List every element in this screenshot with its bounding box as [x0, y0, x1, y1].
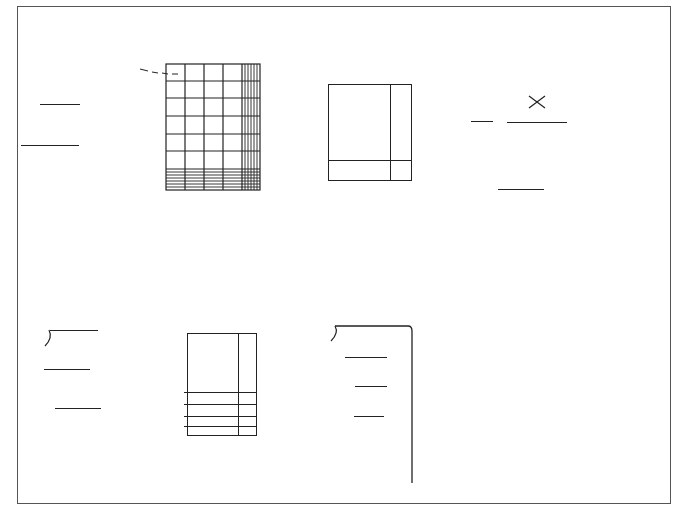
divider [184, 392, 257, 393]
division-bar [50, 330, 98, 331]
rule [507, 122, 567, 123]
rule [21, 145, 79, 146]
rule [40, 104, 80, 105]
divider [184, 416, 257, 417]
rule [55, 408, 101, 409]
cross-multiply-icon [529, 96, 547, 110]
divider [184, 426, 257, 427]
divider [238, 333, 239, 436]
divider [328, 160, 412, 161]
area-rectangle [187, 333, 257, 436]
rule [498, 189, 544, 190]
divider [390, 84, 391, 181]
array-grid [166, 64, 262, 194]
rule [44, 369, 90, 370]
rule [354, 416, 384, 417]
division-bracket [330, 325, 420, 485]
division-bracket [45, 330, 53, 346]
rule [471, 121, 493, 122]
divider [184, 404, 257, 405]
rule [345, 357, 387, 358]
area-rectangle [328, 84, 412, 181]
rule [355, 386, 387, 387]
